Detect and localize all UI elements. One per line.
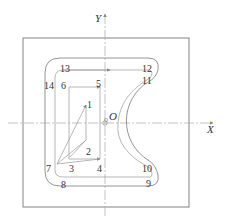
toolpath-diagram: Y X O 1 2 3 4 5 6 7 8 9 10 11 12 13 14 xyxy=(0,0,229,224)
point-label-8: 8 xyxy=(61,179,66,190)
point-label-7: 7 xyxy=(46,163,51,174)
diagram-svg: Y X O 1 2 3 4 5 6 7 8 9 10 11 12 13 14 xyxy=(0,0,229,224)
origin-label: O xyxy=(109,110,117,122)
point-label-11: 11 xyxy=(142,75,152,86)
point-label-6: 6 xyxy=(61,80,66,91)
point-label-9: 9 xyxy=(146,178,151,189)
y-axis-label: Y xyxy=(95,12,103,24)
x-axis-label: X xyxy=(206,123,215,135)
point-label-4: 4 xyxy=(97,163,102,174)
point-label-5: 5 xyxy=(96,78,101,89)
point-label-12: 12 xyxy=(142,63,152,74)
finish-pass-path xyxy=(55,70,152,177)
point-label-13: 13 xyxy=(60,63,70,74)
point-label-1: 1 xyxy=(87,99,92,110)
point-label-10: 10 xyxy=(142,163,152,174)
point-label-3: 3 xyxy=(69,163,74,174)
point-label-14: 14 xyxy=(44,80,54,91)
point-label-2: 2 xyxy=(86,146,91,157)
